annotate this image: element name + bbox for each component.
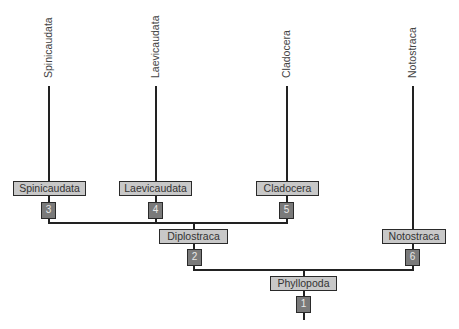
branch-notostraca <box>412 86 414 230</box>
leaf-label-laevicaudata: Laevicaudata <box>149 16 161 78</box>
join-diplostraca <box>48 222 288 224</box>
node-2: 2 <box>187 249 202 266</box>
taxon-spinicaudata: Spinicaudata <box>13 181 86 196</box>
taxon-phyllopoda: Phyllopoda <box>270 276 337 291</box>
node-6: 6 <box>405 249 420 266</box>
taxon-laevicaudata: Laevicaudata <box>119 181 192 196</box>
leaf-label-notostraca: Notostraca <box>406 27 418 78</box>
node-4: 4 <box>148 202 163 219</box>
taxon-diplostraca: Diplostraca <box>159 229 228 244</box>
taxon-notostraca: Notostraca <box>382 229 446 244</box>
node-5: 5 <box>279 202 294 219</box>
taxon-cladocera: Cladocera <box>256 181 319 196</box>
branch-spinicaudata <box>48 86 50 182</box>
branch-cladocera <box>286 86 288 182</box>
branch-laevicaudata <box>155 86 157 182</box>
node-3: 3 <box>41 202 56 219</box>
root-stem <box>303 313 305 320</box>
node-1: 1 <box>296 296 311 313</box>
leaf-label-cladocera: Cladocera <box>280 30 292 78</box>
leaf-label-spinicaudata: Spinicaudata <box>42 17 54 78</box>
